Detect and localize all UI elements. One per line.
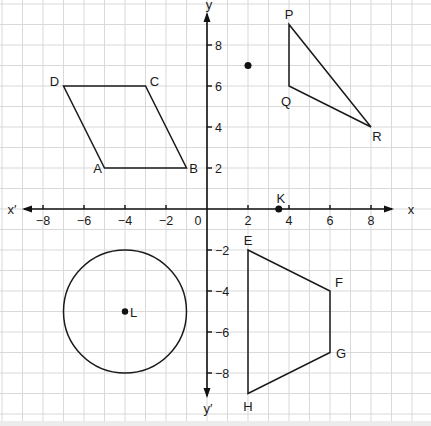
page-edge — [0, 421, 431, 426]
vertex-label-d: D — [50, 74, 59, 89]
y-tick-label: 4 — [215, 121, 222, 135]
y-axis-up-arrow-icon — [204, 12, 211, 22]
origin-label: 0 — [195, 214, 202, 228]
vertex-label-p: P — [285, 7, 294, 22]
vertex-label-e: E — [244, 233, 253, 248]
x-tick-label: 6 — [327, 214, 334, 228]
axes — [22, 12, 394, 398]
x-tick-label: 4 — [286, 214, 293, 228]
y-axis-label: y — [206, 0, 213, 12]
circle-centre-label: L — [130, 305, 137, 320]
x-tick-label: −6 — [77, 214, 91, 228]
y-tick-label: −2 — [215, 244, 229, 258]
point-k — [275, 206, 282, 213]
coordinate-plane: xx′yy′0−8−6−4−224688642−2−4−6−8LABCDPQRE… — [0, 0, 431, 426]
vertex-label-h: H — [243, 399, 252, 414]
x-axis-left-arrow-icon — [22, 206, 32, 213]
y-tick-label: −8 — [215, 367, 229, 381]
x-axis-right-arrow-icon — [384, 206, 394, 213]
vertex-label-b: B — [189, 161, 198, 176]
x-tick-label: −8 — [36, 214, 50, 228]
vertex-label-a: A — [93, 161, 102, 176]
point-label-k: K — [276, 191, 285, 206]
y-tick-label: 6 — [215, 80, 222, 94]
vertex-label-c: C — [150, 74, 159, 89]
x-axis-negative-label: x′ — [8, 202, 18, 217]
labels: xx′yy′0−8−6−4−224688642−2−4−6−8LABCDPQRE… — [8, 0, 415, 416]
point-unlabeled — [245, 62, 252, 69]
x-axis-label: x — [408, 202, 415, 217]
x-tick-label: −2 — [159, 214, 173, 228]
y-tick-label: −6 — [215, 326, 229, 340]
circle-centre-point — [122, 308, 128, 314]
y-tick-label: 8 — [215, 39, 222, 53]
x-tick-label: 8 — [368, 214, 375, 228]
y-axis-negative-label: y′ — [204, 401, 214, 416]
vertex-label-r: R — [372, 129, 381, 144]
vertex-label-f: F — [335, 275, 343, 290]
vertex-label-q: Q — [281, 94, 291, 109]
grid-lines — [0, 0, 431, 421]
x-tick-label: 2 — [245, 214, 252, 228]
vertex-label-g: G — [336, 346, 346, 361]
x-tick-label: −4 — [118, 214, 132, 228]
y-tick-label: −4 — [215, 285, 229, 299]
y-tick-label: 2 — [215, 162, 222, 176]
